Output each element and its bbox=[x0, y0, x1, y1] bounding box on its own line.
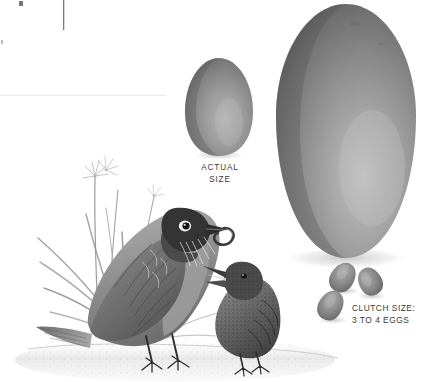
clutch-size-caption: CLUTCH SIZE: 3 TO 4 EGGS bbox=[352, 302, 425, 326]
enlarged-egg-speckle-b bbox=[377, 42, 385, 45]
actual-size-caption: ACTUAL SIZE bbox=[168, 162, 272, 185]
actual-size-caption-line1: ACTUAL bbox=[168, 162, 272, 174]
scan-vertical-tick bbox=[63, 0, 64, 30]
clutch-caption-line1: CLUTCH SIZE: bbox=[352, 302, 425, 314]
enlarged-egg-highlight bbox=[339, 110, 405, 226]
scan-dot bbox=[1, 40, 3, 44]
scan-mark bbox=[19, 1, 23, 6]
actual-size-caption-line2: SIZE bbox=[168, 174, 272, 186]
juvenile-eye-glint bbox=[242, 274, 244, 276]
scan-rule bbox=[0, 95, 166, 97]
juvenile-eye bbox=[241, 273, 247, 278]
enlarged-egg-speckle-a bbox=[349, 22, 361, 26]
adult-eye-glint bbox=[184, 224, 186, 226]
juvenile-head-speckles bbox=[224, 262, 263, 300]
clutch-caption-line2: 3 TO 4 EGGS bbox=[352, 314, 425, 326]
adult-eye bbox=[182, 223, 189, 230]
actual-size-egg-highlight bbox=[215, 98, 243, 146]
